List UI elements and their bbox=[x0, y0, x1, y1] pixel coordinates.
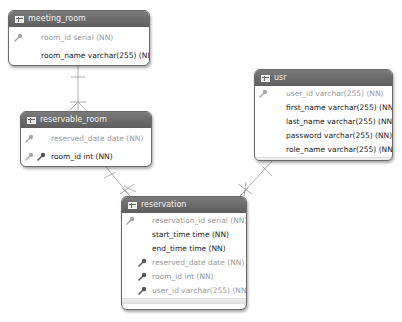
entity-user[interactable]: usr user_id varchar(255) (NN) first_name… bbox=[254, 69, 393, 161]
table-icon bbox=[128, 202, 137, 209]
column-text: reserved_date date (NN) bbox=[152, 256, 244, 270]
entity-name: meeting_room bbox=[28, 11, 86, 27]
relationship-user-reservation[interactable] bbox=[238, 160, 273, 196]
column-text: first_name varchar(255) (NN) bbox=[286, 101, 393, 115]
column-row-last-name[interactable]: last_name varchar(255) (NN) bbox=[255, 115, 392, 129]
column-row-user-id[interactable]: user_id varchar(255) (NN) bbox=[122, 284, 246, 298]
column-text: last_name varchar(255) (NN) bbox=[286, 115, 393, 129]
column-row-end-time[interactable]: end_time time (NN) bbox=[122, 242, 246, 256]
column-text: password varchar(255) (NN) bbox=[286, 129, 392, 143]
entity-name: usr bbox=[274, 70, 287, 86]
foreign-key-icon bbox=[137, 286, 147, 296]
primary-key-icon bbox=[24, 152, 34, 162]
entity-header[interactable]: reservation bbox=[122, 197, 246, 213]
column-row-start-time[interactable]: start_time time (NN) bbox=[122, 228, 246, 242]
relationship-meeting-room-reservable-room[interactable] bbox=[70, 66, 86, 110]
column-text: user_id varchar(255) (NN) bbox=[152, 284, 247, 298]
column-row-reserved-date[interactable]: reserved_date date (NN) bbox=[122, 256, 246, 270]
entity-name: reservation bbox=[141, 197, 186, 213]
primary-key-icon bbox=[13, 33, 23, 43]
foreign-key-icon bbox=[137, 272, 147, 282]
column-text: reserved_date date (NN) bbox=[51, 130, 143, 148]
entity-footer bbox=[21, 166, 151, 167]
column-row-reserved-date[interactable]: reserved_date date (NN) bbox=[21, 130, 151, 148]
column-row-role-name[interactable]: role_name varchar(255) (NN) bbox=[255, 143, 392, 157]
entity-footer bbox=[255, 157, 392, 161]
column-text: reservation_id serial (NN) bbox=[152, 214, 247, 228]
entity-reservable-room[interactable]: reservable_room reserved_date date (NN) … bbox=[20, 111, 152, 167]
column-text: room_id int (NN) bbox=[152, 270, 214, 284]
entity-name: reservable_room bbox=[40, 112, 107, 128]
column-row-room-id[interactable]: room_id int (NN) bbox=[122, 270, 246, 284]
column-text: user_id varchar(255) (NN) bbox=[286, 87, 383, 101]
column-row-first-name[interactable]: first_name varchar(255) (NN) bbox=[255, 101, 392, 115]
primary-key-icon bbox=[258, 89, 268, 99]
table-icon bbox=[261, 75, 270, 82]
column-row-reservation-id[interactable]: reservation_id serial (NN) bbox=[122, 214, 246, 228]
column-text: room_id int (NN) bbox=[51, 148, 113, 166]
primary-key-icon bbox=[125, 216, 135, 226]
er-diagram-canvas: meeting_room room_id serial (NN) room_na… bbox=[0, 0, 402, 322]
entity-header[interactable]: usr bbox=[255, 70, 392, 86]
foreign-key-icon bbox=[36, 152, 46, 162]
column-row-room-id[interactable]: room_id int (NN) bbox=[21, 148, 151, 166]
column-row-room-id[interactable]: room_id serial (NN) bbox=[9, 29, 149, 47]
table-icon bbox=[15, 16, 24, 23]
column-text: room_id serial (NN) bbox=[41, 29, 113, 47]
entity-footer bbox=[122, 298, 246, 304]
entity-header[interactable]: meeting_room bbox=[9, 11, 149, 27]
primary-key-icon bbox=[24, 134, 34, 144]
column-text: role_name varchar(255) (NN) bbox=[286, 143, 393, 157]
table-icon bbox=[27, 117, 36, 124]
entity-reservation[interactable]: reservation reservation_id serial (NN) s… bbox=[121, 196, 247, 310]
foreign-key-icon bbox=[137, 258, 147, 268]
entity-footer bbox=[9, 65, 149, 66]
column-text: room_name varchar(255) (NN) bbox=[41, 47, 150, 65]
column-row-room-name[interactable]: room_name varchar(255) (NN) bbox=[9, 47, 149, 65]
relationship-reservable-room-reservation[interactable] bbox=[102, 162, 136, 196]
column-text: start_time time (NN) bbox=[152, 228, 229, 242]
column-row-user-id[interactable]: user_id varchar(255) (NN) bbox=[255, 87, 392, 101]
column-text: end_time time (NN) bbox=[152, 242, 226, 256]
entity-meeting-room[interactable]: meeting_room room_id serial (NN) room_na… bbox=[8, 10, 150, 66]
entity-header[interactable]: reservable_room bbox=[21, 112, 151, 128]
column-row-password[interactable]: password varchar(255) (NN) bbox=[255, 129, 392, 143]
